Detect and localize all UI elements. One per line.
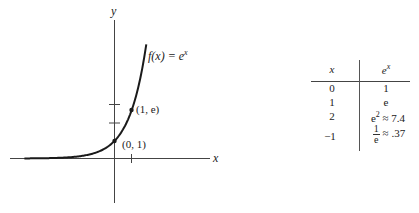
- table-header-ex: ex: [373, 62, 399, 76]
- fraction-one-over-e: 1e: [373, 124, 380, 145]
- point-1-e: [129, 108, 133, 112]
- table-cell-val-0: 1: [373, 82, 399, 94]
- function-label: f(x) = ex: [148, 48, 188, 64]
- y-axis-label: y: [111, 4, 116, 19]
- table-cell-x-1: 1: [325, 96, 339, 108]
- table-cell-val-3: 1e ≈ .37: [366, 124, 412, 145]
- table-column-divider: [359, 60, 360, 151]
- point-0-1: [112, 139, 116, 143]
- table-cell-x-2: 2: [325, 110, 339, 122]
- table-cell-x-0: 0: [325, 82, 339, 94]
- table-cell-val-2: e2 ≈ 7.4: [365, 110, 411, 124]
- function-label-exponent: x: [184, 48, 188, 57]
- table-header-x: x: [325, 63, 339, 75]
- values-table: x ex 0 1 1 e 2 e2 ≈ 7.4 −1 1e ≈ .37: [311, 60, 411, 155]
- exponential-graph: [0, 0, 240, 213]
- table-cell-x-3: −1: [319, 130, 341, 142]
- point-label-0-1: (0, 1): [122, 138, 146, 150]
- point-label-1-e: (1, e): [136, 103, 159, 115]
- function-label-text: f(x) = e: [148, 49, 184, 63]
- table-cell-val-1: e: [373, 96, 399, 108]
- x-axis-label: x: [213, 151, 218, 166]
